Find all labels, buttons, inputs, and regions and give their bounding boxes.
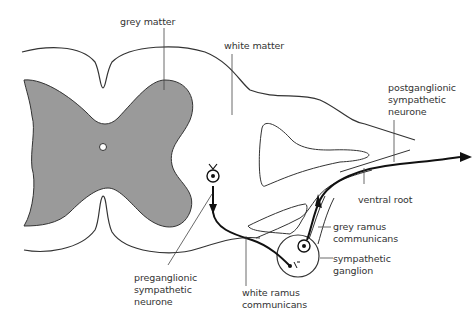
sympathetic-ganglion-shape: [277, 235, 319, 277]
synapse-terminal: [288, 264, 292, 268]
label-preganglionic-neurone: preganglionic sympathetic neurone: [134, 272, 197, 308]
label-ventral-root: ventral root: [358, 194, 412, 206]
preganglionic-fibre: [213, 186, 290, 266]
label-postganglionic-neurone: postganglionic sympathetic neurone: [388, 82, 456, 118]
label-sympathetic-ganglion: sympathetic ganglion: [333, 253, 391, 277]
label-grey-ramus-communicans: grey ramus communicans: [333, 221, 398, 245]
soma-nucleus: [211, 174, 215, 178]
grey-matter-shape: [24, 80, 193, 227]
diagram-canvas: grey matter white matter postganglionic …: [0, 0, 476, 320]
label-grey-matter: grey matter: [120, 16, 175, 28]
central-canal: [100, 144, 107, 151]
arrow-icon: [209, 204, 217, 214]
ventral-root-inner-contour: [259, 123, 369, 186]
arrow-icon: [315, 194, 322, 208]
dendrite-icon: [209, 164, 217, 169]
soma-nucleus: [302, 244, 306, 248]
label-white-matter: white matter: [224, 40, 284, 52]
label-white-ramus-communicans: white ramus communicans: [242, 287, 307, 311]
arrow-icon: [460, 152, 472, 162]
